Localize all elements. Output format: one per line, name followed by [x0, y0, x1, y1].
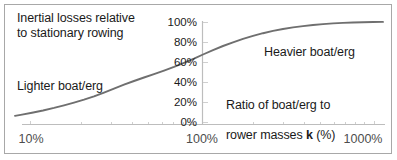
y-axis-ticks [203, 23, 208, 123]
ratio-symbol-k: k [306, 128, 313, 142]
y-tick-label-0: 0% [157, 116, 197, 128]
ratio-line-2-suffix: (%) [313, 128, 336, 142]
ratio-line-2-prefix: rower masses [226, 128, 306, 142]
annotation-heavier-boat-erg: Heavier boat/erg [264, 45, 394, 60]
chart-figure: 100% 80% 60% 40% 20% 0% 10% 100% 1000% I… [0, 0, 397, 160]
x-tick-label-10: 10% [0, 133, 66, 146]
y-tick-label-20: 20% [157, 96, 197, 108]
ratio-line-1: Ratio of boat/erg to [226, 98, 330, 112]
annotation-inertial-losses: Inertial losses relative to stationary r… [17, 11, 177, 41]
y-tick-label-60: 60% [157, 56, 197, 68]
annotation-lighter-boat-erg: Lighter boat/erg [17, 79, 167, 94]
annotation-ratio-axis-label: Ratio of boat/erg to rower masses k (%) [226, 83, 386, 143]
